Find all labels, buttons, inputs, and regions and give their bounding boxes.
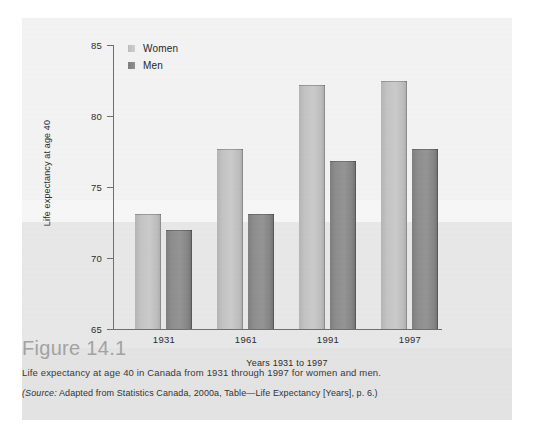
bar-cap	[217, 149, 243, 150]
figure-caption-block: Life expectancy at age 40 in Canada from…	[22, 366, 472, 400]
y-tick-65	[107, 329, 113, 330]
y-axis-line	[113, 45, 114, 330]
y-tick-label-70: 70	[72, 253, 102, 264]
legend-swatch-men-icon	[128, 62, 135, 69]
y-tick-label-80: 80	[72, 111, 102, 122]
legend-label-men: Men	[143, 60, 163, 71]
x-tick-label-1997: 1997	[380, 334, 440, 345]
figure-heading: Figure 14.1	[22, 337, 126, 360]
legend-swatch-women-icon	[128, 45, 135, 52]
bar-cap	[299, 85, 325, 86]
legend-item-men: Men	[128, 57, 178, 74]
bar-men-1991	[330, 161, 356, 329]
bar-cap	[412, 149, 438, 150]
chart-legend: Women Men	[128, 40, 178, 74]
y-axis-title: Life expectancy at age 40	[42, 103, 52, 243]
bar-women-1991	[299, 85, 325, 329]
y-tick-80	[107, 116, 113, 117]
x-tick-label-1991: 1991	[298, 334, 358, 345]
bar-cap	[248, 214, 274, 215]
bar-men-1961	[248, 214, 274, 329]
y-tick-label-75: 75	[72, 182, 102, 193]
bar-men-1997	[412, 149, 438, 329]
bar-women-1931	[135, 214, 161, 329]
y-tick-85	[107, 45, 113, 46]
x-tick-label-1961: 1961	[216, 334, 276, 345]
legend-item-women: Women	[128, 40, 178, 57]
figure-source-line: (Source: Adapted from Statistics Canada,…	[22, 386, 472, 400]
bar-cap	[381, 81, 407, 82]
bar-cap	[330, 161, 356, 162]
x-axis-line	[113, 329, 442, 330]
figure-caption-text: Life expectancy at age 40 in Canada from…	[22, 366, 472, 380]
x-tick-label-1931: 1931	[134, 334, 194, 345]
y-tick-70	[107, 258, 113, 259]
bar-cap	[135, 214, 161, 215]
source-label: (Source:	[22, 388, 57, 398]
bar-cap	[166, 230, 192, 231]
bar-women-1961	[217, 149, 243, 329]
figure-page: 85 80 75 70 65 Life expectancy at age 40…	[0, 0, 539, 442]
y-tick-75	[107, 187, 113, 188]
source-text: Adapted from Statistics Canada, 2000a, T…	[57, 388, 378, 398]
legend-label-women: Women	[143, 43, 178, 54]
y-tick-label-65: 65	[72, 324, 102, 335]
bar-women-1997	[381, 81, 407, 330]
bar-men-1931	[166, 230, 192, 329]
y-tick-label-85: 85	[72, 40, 102, 51]
